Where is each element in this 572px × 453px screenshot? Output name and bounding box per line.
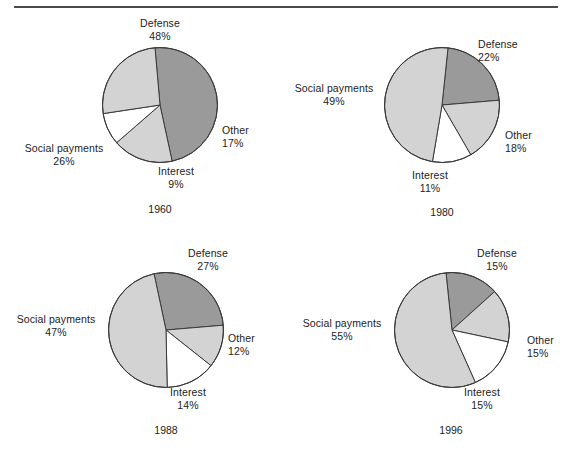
pie-slice-1960-social-payments xyxy=(103,48,160,114)
slice-label-1996-defense: Defense 15% xyxy=(462,247,532,272)
pie-panel-1988 xyxy=(108,272,224,388)
pie-slices-1988 xyxy=(109,273,224,388)
pie-chart-1996 xyxy=(394,272,510,388)
slice-label-1960-defense-name: Defense xyxy=(140,17,180,29)
pie-chart-1960 xyxy=(102,47,218,163)
slice-label-1980-defense: Defense 22% xyxy=(478,38,548,63)
figure-canvas: Defense 48% Other 17% Interest 9% Social… xyxy=(0,0,572,453)
slice-label-1988-social: Social payments 47% xyxy=(8,313,104,338)
panel-year-1996: 1996 xyxy=(426,424,476,436)
slice-label-1996-other-name: Other xyxy=(527,334,554,346)
slice-label-1960-interest-pct: 9% xyxy=(146,178,206,191)
slice-label-1960-interest-name: Interest xyxy=(158,165,194,177)
slice-label-1980-other-name: Other xyxy=(505,129,532,141)
slice-label-1980-interest: Interest 11% xyxy=(400,169,460,194)
pie-slices-1980 xyxy=(384,47,499,162)
slice-label-1988-interest-pct: 14% xyxy=(158,399,218,412)
slice-label-1960-other: Other 17% xyxy=(222,124,280,149)
slice-label-1960-interest: Interest 9% xyxy=(146,165,206,190)
slice-label-1960-social-pct: 26% xyxy=(16,155,112,168)
pie-chart-1980 xyxy=(384,47,500,163)
slice-label-1988-social-name: Social payments xyxy=(17,313,96,325)
panel-year-1980: 1980 xyxy=(417,206,467,218)
slice-label-1996-social-pct: 55% xyxy=(294,330,390,343)
top-horizontal-rule xyxy=(14,6,558,8)
pie-slices-1960 xyxy=(103,48,218,163)
slice-label-1980-defense-pct: 22% xyxy=(478,51,548,64)
pie-panel-1960 xyxy=(102,47,218,163)
pie-chart-1988 xyxy=(108,272,224,388)
slice-label-1996-interest-name: Interest xyxy=(464,386,500,398)
slice-label-1980-other: Other 18% xyxy=(505,129,563,154)
slice-label-1960-defense-pct: 48% xyxy=(125,30,195,43)
slice-label-1960-social: Social payments 26% xyxy=(16,142,112,167)
slice-label-1988-social-pct: 47% xyxy=(8,326,104,339)
slice-label-1988-other-pct: 12% xyxy=(228,345,286,358)
slice-label-1988-defense: Defense 27% xyxy=(173,247,243,272)
slice-label-1996-social: Social payments 55% xyxy=(294,317,390,342)
slice-label-1960-social-name: Social payments xyxy=(25,142,104,154)
slice-label-1996-other-pct: 15% xyxy=(527,347,572,360)
slice-label-1980-social-pct: 49% xyxy=(286,95,382,108)
slice-label-1980-other-pct: 18% xyxy=(505,142,563,155)
slice-label-1980-defense-name: Defense xyxy=(478,38,518,50)
slice-label-1996-interest-pct: 15% xyxy=(452,399,512,412)
slice-label-1960-defense: Defense 48% xyxy=(125,17,195,42)
slice-label-1980-interest-name: Interest xyxy=(412,169,448,181)
slice-label-1988-interest: Interest 14% xyxy=(158,386,218,411)
pie-slices-1996 xyxy=(395,272,510,387)
slice-label-1996-social-name: Social payments xyxy=(303,317,382,329)
pie-panel-1996 xyxy=(394,272,510,388)
slice-label-1996-defense-pct: 15% xyxy=(462,260,532,273)
slice-label-1996-interest: Interest 15% xyxy=(452,386,512,411)
slice-label-1988-defense-pct: 27% xyxy=(173,260,243,273)
slice-label-1980-social: Social payments 49% xyxy=(286,82,382,107)
panel-year-1988: 1988 xyxy=(141,424,191,436)
slice-label-1980-social-name: Social payments xyxy=(295,82,374,94)
slice-label-1996-other: Other 15% xyxy=(527,334,572,359)
pie-panel-1980 xyxy=(384,47,500,163)
slice-label-1996-defense-name: Defense xyxy=(477,247,517,259)
slice-label-1960-other-name: Other xyxy=(222,124,249,136)
panel-year-1960: 1960 xyxy=(135,203,185,215)
slice-label-1988-other-name: Other xyxy=(228,332,255,344)
slice-label-1988-defense-name: Defense xyxy=(188,247,228,259)
slice-label-1960-other-pct: 17% xyxy=(222,137,280,150)
slice-label-1988-other: Other 12% xyxy=(228,332,286,357)
slice-label-1980-interest-pct: 11% xyxy=(400,182,460,195)
slice-label-1988-interest-name: Interest xyxy=(170,386,206,398)
